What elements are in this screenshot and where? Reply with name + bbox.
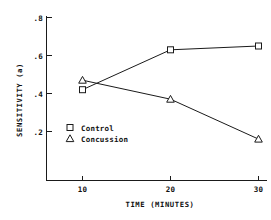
legend-entry-control: Control	[67, 124, 114, 133]
axis-spines	[47, 16, 267, 181]
x-tick-label-20: 20	[166, 185, 176, 194]
legend-label-concussion: Concussion	[81, 135, 128, 144]
y-axis-tick-labels: .8 .6 .4 .2	[34, 14, 44, 137]
y-tick-label-0.8: .8	[34, 14, 44, 23]
y-tick-label-0.2: .2	[34, 128, 43, 137]
y-tick-label-0.4: .4	[34, 90, 44, 99]
data-point-concussion-30	[255, 135, 263, 142]
data-point-control-30	[256, 43, 262, 49]
axis-frame	[47, 16, 267, 181]
x-axis-title: TIME (MINUTES)	[126, 200, 195, 209]
data-point-concussion-10	[79, 76, 87, 83]
data-point-control-20	[168, 47, 174, 53]
data-point-control-10	[80, 87, 86, 93]
x-tick-label-30: 30	[254, 185, 264, 194]
x-axis-tick-labels: 10 20 30	[78, 185, 264, 194]
legend-triangle-marker-icon	[66, 135, 74, 142]
x-tick-label-10: 10	[78, 185, 88, 194]
sensitivity-vs-time-line-chart: .8 .6 .4 .2 10 20 30 TIME (MINUTES) SENS…	[0, 0, 271, 220]
legend-entry-concussion: Concussion	[66, 135, 128, 144]
x-axis-ticks	[83, 176, 259, 181]
y-axis-ticks	[47, 18, 52, 132]
chart-legend: Control Concussion	[66, 124, 128, 144]
chart-figure: .8 .6 .4 .2 10 20 30 TIME (MINUTES) SENS…	[0, 0, 271, 220]
legend-label-control: Control	[81, 124, 114, 133]
legend-square-marker-icon	[67, 125, 73, 131]
y-axis-title: SENSITIVITY (a)	[15, 63, 24, 137]
y-tick-label-0.6: .6	[34, 52, 44, 61]
